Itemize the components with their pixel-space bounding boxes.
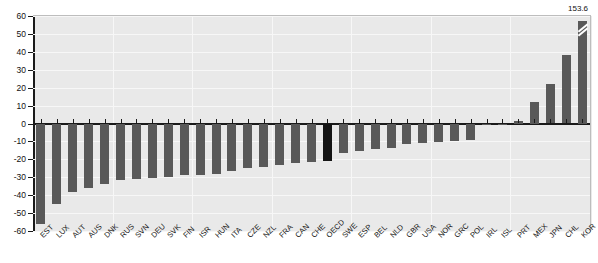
x-tick-mark	[121, 119, 122, 123]
bar-isr	[196, 124, 205, 175]
y-axis: 6050403020100-10-20-30-40-50-60	[0, 0, 33, 263]
bar-esp	[355, 124, 364, 152]
bar-pol	[466, 124, 475, 140]
x-tick-mark	[502, 119, 503, 123]
bar-nzl	[259, 124, 268, 167]
y-tick-mark	[28, 52, 33, 53]
bar-gbr	[402, 124, 411, 145]
bar-che	[307, 124, 316, 163]
y-tick-mark	[28, 195, 33, 196]
x-tick-mark	[534, 119, 535, 123]
x-tick-mark	[471, 119, 472, 123]
y-tick-mark	[28, 88, 33, 89]
bar-swe	[339, 124, 348, 154]
y-tick-label: 30	[17, 66, 26, 75]
bar-isl	[498, 124, 507, 125]
x-tick-mark	[550, 119, 551, 123]
bar-nld	[387, 124, 396, 148]
y-tick-label: 20	[17, 84, 26, 93]
y-tick-mark	[28, 16, 33, 17]
x-tick-mark	[423, 119, 424, 123]
x-tick-mark	[41, 119, 42, 123]
bar-grc	[450, 124, 459, 142]
y-tick-mark	[28, 231, 33, 232]
bar-bel	[371, 124, 380, 150]
x-tick-mark	[375, 119, 376, 123]
x-tick-mark	[105, 119, 106, 123]
x-tick-mark	[343, 119, 344, 123]
x-tick-mark	[73, 119, 74, 123]
x-tick-mark	[407, 119, 408, 123]
x-tick-mark	[168, 119, 169, 123]
x-tick-mark	[566, 119, 567, 123]
bar-chl	[562, 55, 571, 124]
x-tick-mark	[312, 119, 313, 123]
x-tick-mark	[248, 119, 249, 123]
bar-dnk	[100, 124, 109, 184]
x-tick-mark	[518, 119, 519, 123]
y-tick-mark	[28, 159, 33, 160]
y-tick-label: -60	[14, 227, 26, 236]
y-tick-label: 40	[17, 48, 26, 57]
y-tick-label: -20	[14, 155, 26, 164]
x-tick-mark	[582, 119, 583, 123]
bar-deu	[148, 124, 157, 179]
bar-aus	[84, 124, 93, 189]
bar-oecd	[323, 124, 332, 162]
bar-usa	[418, 124, 427, 144]
x-tick-mark	[89, 119, 90, 123]
y-tick-label: -40	[14, 191, 26, 200]
x-tick-mark	[57, 119, 58, 123]
x-tick-mark	[455, 119, 456, 123]
x-tick-mark	[232, 119, 233, 123]
y-tick-mark	[28, 177, 33, 178]
x-tick-mark	[264, 119, 265, 123]
x-tick-mark	[216, 119, 217, 123]
bar-chart: 6050403020100-10-20-30-40-50-60 ESTLUXAU…	[0, 0, 598, 263]
y-tick-label: -30	[14, 173, 26, 182]
bar-svk	[164, 124, 173, 178]
bar-ita	[227, 124, 236, 171]
bar-svn	[132, 124, 141, 180]
x-tick-mark	[136, 119, 137, 123]
bar-irl	[482, 124, 491, 126]
bar-can	[291, 124, 300, 163]
x-tick-mark	[184, 119, 185, 123]
y-tick-mark	[28, 106, 33, 107]
bar-nor	[434, 124, 443, 143]
bar-cze	[243, 124, 252, 169]
bar-aut	[68, 124, 77, 192]
x-tick-mark	[487, 119, 488, 123]
x-tick-mark	[280, 119, 281, 123]
bar-est	[36, 124, 45, 224]
value-label-kor: 153.6	[568, 4, 588, 13]
y-tick-label: 50	[17, 30, 26, 39]
x-tick-mark	[200, 119, 201, 123]
bar-hun	[212, 124, 221, 174]
y-tick-mark	[28, 34, 33, 35]
y-tick-label: 10	[17, 102, 26, 111]
x-tick-mark	[327, 119, 328, 123]
x-tick-mark	[152, 119, 153, 123]
y-tick-mark	[28, 141, 33, 142]
y-tick-label: 60	[17, 12, 26, 21]
bar-lux	[52, 124, 61, 205]
bar-fin	[180, 124, 189, 176]
panel-right-border	[590, 16, 591, 232]
y-tick-label: -50	[14, 209, 26, 218]
y-tick-label: 0	[21, 120, 26, 129]
y-tick-mark	[28, 213, 33, 214]
x-tick-mark	[296, 119, 297, 123]
y-tick-mark	[28, 70, 33, 71]
bar-fra	[275, 124, 284, 165]
y-tick-label: -10	[14, 137, 26, 146]
x-tick-mark	[439, 119, 440, 123]
bar-kor	[578, 21, 587, 123]
x-tick-mark	[391, 119, 392, 123]
bar-rus	[116, 124, 125, 180]
x-tick-mark	[359, 119, 360, 123]
